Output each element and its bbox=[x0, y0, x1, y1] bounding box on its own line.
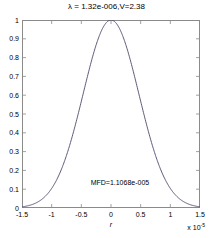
y-tick-label: 0.9 bbox=[9, 35, 19, 42]
x-exponent-value: -5 bbox=[201, 222, 205, 228]
x-tick-label: 0 bbox=[96, 211, 126, 218]
y-tick-label: 0.8 bbox=[9, 54, 19, 61]
chart-title: λ = 1.32e-006,V=2.38 bbox=[0, 2, 213, 11]
plot-area: MFD=1.1068e-005 bbox=[22, 20, 200, 208]
y-tick-label: 0.5 bbox=[9, 111, 19, 118]
y-tick-label: 0.1 bbox=[9, 186, 19, 193]
y-tick-label: 1 bbox=[15, 17, 19, 24]
x-tick-label: 0.5 bbox=[126, 211, 156, 218]
x-tick-label: -1.5 bbox=[7, 211, 37, 218]
x-tick-label: 1 bbox=[155, 211, 185, 218]
y-axis-tick-labels: 00.10.20.30.40.50.60.70.80.91 bbox=[0, 20, 19, 208]
x-axis-tick-labels: -1.5-1-0.500.511.5 bbox=[22, 211, 200, 221]
x-tick-label: 1.5 bbox=[185, 211, 213, 218]
y-tick-label: 0.4 bbox=[9, 129, 19, 136]
y-tick-label: 0.7 bbox=[9, 73, 19, 80]
x-exponent-prefix: x 10 bbox=[187, 224, 200, 231]
y-tick-label: 0.6 bbox=[9, 92, 19, 99]
x-tick-label: -0.5 bbox=[66, 211, 96, 218]
chart-figure: λ = 1.32e-006,V=2.38 00.10.20.30.40.50.6… bbox=[0, 0, 213, 238]
y-tick-label: 0.3 bbox=[9, 148, 19, 155]
x-tick-label: -1 bbox=[37, 211, 67, 218]
x-axis-exponent: x 10-5 bbox=[155, 222, 205, 231]
mfd-annotation: MFD=1.1068e-005 bbox=[90, 178, 151, 188]
y-tick-label: 0.2 bbox=[9, 167, 19, 174]
